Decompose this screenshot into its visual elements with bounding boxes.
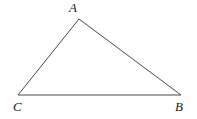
vertex-label-c: C xyxy=(13,100,22,113)
triangle-outline xyxy=(18,19,181,95)
vertex-label-b: B xyxy=(175,100,183,113)
triangle-drawing xyxy=(0,0,197,119)
geometry-figure: A C B xyxy=(0,0,197,119)
vertex-label-a: A xyxy=(69,1,77,14)
